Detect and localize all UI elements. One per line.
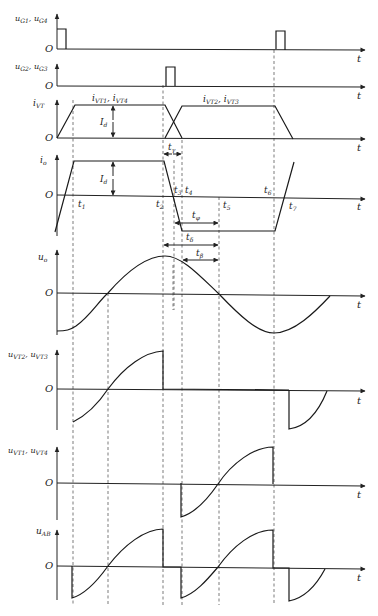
ivt2-ivt3-label: iVT2, iVT3 <box>203 94 239 105</box>
origin-label: O <box>45 383 53 394</box>
id-label-ivt: Id <box>99 117 108 128</box>
panel-label-ug2-ug3: uG2, uG3 <box>15 62 48 72</box>
time-axis-label: t <box>357 201 362 212</box>
t5-label: t5 <box>223 200 231 211</box>
origin-label: O <box>45 43 53 54</box>
panel-io: io O t Id t1 t2 t3 t4 t5 t6 t7 tφ tδ tβ <box>40 155 365 260</box>
panel-uvt1-uvt4: uVT1, uVT4 O t <box>8 446 365 520</box>
time-axis-label: t <box>357 395 362 406</box>
t7-label: t7 <box>289 201 297 212</box>
t2-label: t2 <box>156 199 164 210</box>
origin-label: O <box>45 287 53 298</box>
uvt2-tail-wave <box>289 390 327 429</box>
panel-ivt: iVT O t iVT1, iVT4 iVT2, iVT3 Id tγ <box>33 93 365 154</box>
t6-label: t6 <box>264 185 272 196</box>
origin-label: O <box>45 132 53 143</box>
origin-label: O <box>45 560 53 571</box>
panel-uo: uo O t <box>38 250 365 335</box>
time-axis-label: t <box>357 53 362 64</box>
t3-label: t3 <box>174 185 182 196</box>
uvt2-wave <box>73 351 289 422</box>
panel-label-uvt2-uvt3: uVT2, uVT3 <box>8 350 48 360</box>
panel-uab: uAB O t <box>36 526 365 601</box>
uvt1-wave <box>181 447 273 517</box>
time-axis-label: t <box>357 572 362 583</box>
gate-pulse-1 <box>57 29 66 49</box>
t-phi-label: tφ <box>192 210 201 222</box>
panel-ug2-ug3: uG2, uG3 O t <box>15 62 365 101</box>
ivt1-ivt4-label: iVT1, iVT4 <box>92 93 128 104</box>
waveform-diagram: uG1, uG4 O t uG2, uG3 O t iVT O t iVT1, … <box>0 0 378 616</box>
panel-label-uab: uAB <box>36 526 51 537</box>
t4-label: t4 <box>185 185 193 196</box>
diagram-canvas: uG1, uG4 O t uG2, uG3 O t iVT O t iVT1, … <box>0 0 378 616</box>
origin-label: O <box>45 189 53 200</box>
t-gamma-label: tγ <box>168 142 176 154</box>
time-axis-label: t <box>357 90 362 101</box>
guide-lines <box>73 50 274 605</box>
origin-label: O <box>45 477 53 488</box>
t-beta-label: tβ <box>196 248 204 260</box>
panel-label-uo: uo <box>38 252 48 263</box>
time-axis-label: t <box>357 489 362 500</box>
gate-pulse <box>166 67 175 86</box>
panel-label-uvt1-uvt4: uVT1, uVT4 <box>8 446 48 456</box>
panel-label-ug1-ug4: uG1, uG4 <box>15 14 48 24</box>
gate-pulse-2 <box>276 31 285 50</box>
t-delta-label: tδ <box>186 232 194 243</box>
uab-wave <box>72 529 325 601</box>
panel-label-ivt: iVT <box>33 98 45 109</box>
time-axis-label: t <box>357 299 362 310</box>
t1-label: t1 <box>78 199 85 210</box>
panel-uvt2-uvt3: uVT2, uVT3 O t <box>8 350 365 430</box>
origin-label: O <box>45 80 53 91</box>
panel-label-io: io <box>40 155 47 166</box>
time-axis-label: t <box>357 142 362 153</box>
id-label-io: Id <box>99 174 108 185</box>
panel-ug1-ug4: uG1, uG4 O t <box>15 14 365 64</box>
